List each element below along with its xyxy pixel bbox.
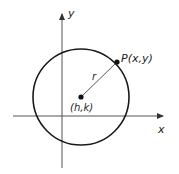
center-point: [78, 94, 83, 99]
point-p-label: P(x,y): [121, 52, 153, 65]
x-axis-label: x: [157, 123, 165, 136]
circle-diagram: y x P(x,y) r (h,k): [0, 0, 179, 174]
radius-label: r: [92, 71, 97, 82]
point-p: [114, 59, 119, 64]
y-axis-label: y: [67, 7, 75, 20]
radius-line: [81, 62, 117, 97]
center-label: (h,k): [70, 102, 93, 113]
